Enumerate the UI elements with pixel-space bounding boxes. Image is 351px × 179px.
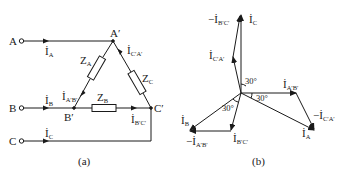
arrow-icon xyxy=(80,90,86,97)
panel-b-phasors xyxy=(190,15,314,131)
node-a-prime xyxy=(112,40,115,43)
caption-a: (a) xyxy=(78,155,91,168)
arrow-icon xyxy=(43,39,49,44)
phasor-ia xyxy=(241,93,314,130)
angle-arc-bottom xyxy=(233,99,238,102)
phasor-ica xyxy=(233,57,241,93)
current-iab-label: İA′B′ xyxy=(62,90,78,103)
terminal-a xyxy=(19,39,23,43)
node-b-prime-label: B′ xyxy=(64,111,74,123)
node-c-prime xyxy=(150,107,153,110)
angle-arc-right xyxy=(251,93,252,98)
impedance-zc-label: ZC xyxy=(142,72,153,85)
phasor-neg-iab-label: −İA′B′ xyxy=(186,135,208,148)
node-c-prime-label: C′ xyxy=(154,102,164,114)
panel-b-labels: İC −İB′C′ İC′A′ İA′B′ −İC′A′ İA İB −İA′B… xyxy=(181,13,335,168)
current-ica-label: İC′A′ xyxy=(127,44,143,57)
terminal-b xyxy=(19,106,23,110)
current-ic-label: İC xyxy=(45,127,53,140)
phasor-neg-ica xyxy=(296,93,314,129)
terminal-c-label: C xyxy=(9,135,16,147)
phasor-ib-label: İB xyxy=(181,114,190,127)
terminal-a-label: A xyxy=(9,35,17,47)
arrow-icon xyxy=(118,49,123,56)
phasor-neg-ica-label: −İC′A′ xyxy=(313,109,335,122)
branch-ca-wire xyxy=(143,93,151,108)
impedance-zb xyxy=(92,105,116,112)
phasor-neg-ibc-label: −İB′C′ xyxy=(208,13,230,26)
arrow-icon xyxy=(131,106,137,111)
angle-bottom-label: 30° xyxy=(222,103,234,113)
terminal-c xyxy=(19,139,23,143)
current-ibc-label: İB′C′ xyxy=(131,113,147,126)
node-b-prime xyxy=(73,107,76,110)
angle-top-label: 30° xyxy=(245,76,257,86)
current-ia-label: İA xyxy=(45,45,54,58)
three-phase-delta-diagram: A B C İA İB İC A′ B′ C′ ZA ZB ZC İA′B′ İ… xyxy=(0,0,351,179)
phasor-ia-label: İA xyxy=(302,127,311,140)
phasor-iab-label: İA′B′ xyxy=(283,78,299,91)
node-a-prime-label: A′ xyxy=(110,27,120,39)
caption-b: (b) xyxy=(252,155,265,168)
impedance-zb-label: ZB xyxy=(97,91,109,104)
branch-ab-wire xyxy=(103,41,113,57)
impedance-za-label: ZA xyxy=(80,54,92,67)
terminal-b-label: B xyxy=(9,102,16,114)
current-ib-label: İB xyxy=(45,94,54,107)
phasor-ibc-label: İB′C′ xyxy=(233,132,249,145)
angle-right-label: 30° xyxy=(256,93,268,103)
panel-a-labels: A B C İA İB İC A′ B′ C′ ZA ZB ZC İA′B′ İ… xyxy=(9,27,164,168)
phasor-ica-label: İC′A′ xyxy=(209,49,225,62)
phasor-ic-label: İC xyxy=(249,13,257,26)
phasor-neg-ibc xyxy=(233,16,240,57)
